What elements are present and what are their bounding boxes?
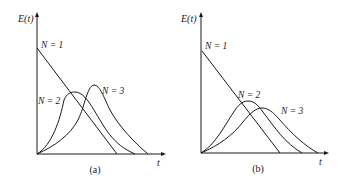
caption-a: (a): [89, 164, 100, 176]
caption-b: (b): [252, 163, 264, 175]
label-n1: N = 1: [40, 40, 63, 50]
y-axis-label: E(t): [17, 13, 34, 25]
x-axis-label: t: [319, 156, 322, 167]
x-axis-label: t: [157, 157, 160, 168]
figure: E(t) t N = 1 N = 2 N = 3 (a) E(t) t N = …: [0, 0, 343, 186]
panel-a: E(t) t N = 1 N = 2 N = 3 (a): [17, 13, 164, 176]
label-n3: N = 3: [280, 106, 303, 116]
label-n2: N = 2: [37, 96, 60, 106]
label-n3: N = 3: [101, 86, 124, 96]
label-n1: N = 1: [204, 41, 227, 51]
curve-n1: [202, 51, 280, 153]
label-n2: N = 2: [237, 90, 260, 100]
panel-b: E(t) t N = 1 N = 2 N = 3 (b): [180, 13, 327, 175]
y-axis-label: E(t): [180, 13, 197, 25]
